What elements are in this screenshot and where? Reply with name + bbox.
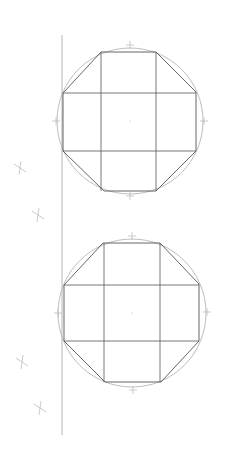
construction-mark (21, 355, 23, 369)
construction-mark (39, 401, 41, 415)
octagon-bottom-outline (64, 243, 199, 382)
drawing-canvas (0, 0, 226, 458)
octagon-top-outline (63, 52, 196, 191)
geometric-construction (0, 0, 226, 458)
construction-mark (19, 161, 21, 175)
construction-mark (37, 208, 39, 222)
octagon-top-center-dot (129, 120, 130, 121)
octagon-bottom-center-dot (131, 312, 132, 313)
